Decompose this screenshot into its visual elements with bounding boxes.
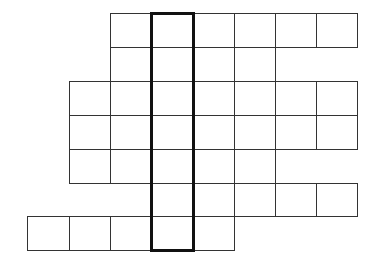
grid-cell	[110, 47, 152, 82]
grid-cell	[193, 81, 235, 116]
grid-cell	[316, 13, 358, 48]
grid-cell	[316, 183, 358, 217]
grid-cell	[193, 183, 235, 217]
grid-cell	[193, 115, 235, 150]
grid-cell	[69, 81, 111, 116]
grid-cell	[69, 149, 111, 184]
grid-cell	[110, 115, 152, 150]
grid-cell	[234, 47, 276, 82]
grid-cell	[234, 115, 276, 150]
grid-cell	[234, 81, 276, 116]
grid-cell	[193, 149, 235, 184]
grid-cell	[234, 13, 276, 48]
grid-cell	[69, 216, 111, 251]
grid-cell	[316, 115, 358, 150]
grid-cell	[110, 149, 152, 184]
grid-cell	[69, 115, 111, 150]
grid-cell	[275, 183, 317, 217]
grid-cell	[193, 216, 235, 251]
grid-cell	[234, 183, 276, 217]
grid-cell	[275, 13, 317, 48]
highlighted-column	[150, 12, 195, 252]
grid-cell	[110, 81, 152, 116]
grid-cell	[110, 216, 152, 251]
grid-cell	[234, 149, 276, 184]
grid-cell	[27, 216, 70, 251]
grid-cell	[193, 47, 235, 82]
grid-cell	[110, 13, 152, 48]
grid-cell	[275, 115, 317, 150]
grid-cell	[316, 81, 358, 116]
grid-cell	[275, 81, 317, 116]
grid-figure	[0, 0, 374, 259]
grid-cell	[193, 13, 235, 48]
